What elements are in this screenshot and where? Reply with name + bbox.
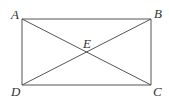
label-c: C bbox=[153, 84, 162, 99]
diagonals bbox=[22, 19, 151, 85]
label-e: E bbox=[82, 36, 91, 51]
label-d: D bbox=[10, 84, 21, 99]
label-a: A bbox=[10, 7, 19, 22]
rectangle-diagram: A B C D E bbox=[0, 0, 169, 101]
label-b: B bbox=[154, 6, 162, 21]
